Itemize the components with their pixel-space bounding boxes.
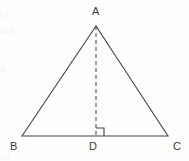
vertex-label-d: D bbox=[89, 141, 97, 152]
right-angle-mark bbox=[96, 128, 104, 136]
side-ab bbox=[22, 26, 96, 136]
vertex-label-b: B bbox=[10, 141, 17, 152]
vertex-label-a: A bbox=[92, 6, 99, 17]
right-angle-square-icon bbox=[96, 128, 104, 136]
vertex-label-c: C bbox=[173, 141, 181, 152]
triangle-outline bbox=[22, 26, 168, 136]
side-ac bbox=[96, 26, 168, 136]
triangle-diagram-svg bbox=[0, 0, 189, 161]
geometry-figure: bleed-through line one faint reversed te… bbox=[0, 0, 189, 161]
